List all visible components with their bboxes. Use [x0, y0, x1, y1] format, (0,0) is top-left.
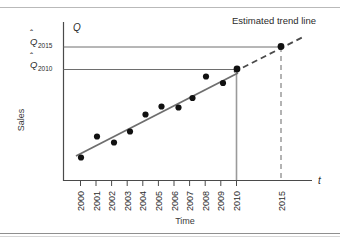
- x-tick-label-2005: 2005: [154, 191, 164, 211]
- trend-line-annotation: Estimated trend line: [232, 15, 316, 26]
- y-tick-label-q2010: Q ̂ 2010: [30, 52, 53, 73]
- y-tick-q2010-subscript: 2010: [38, 65, 53, 72]
- data-point-2002: [111, 139, 117, 145]
- trend-line-extrapolation: [234, 36, 305, 72]
- x-axis-ticks: [81, 181, 237, 187]
- x-tick-label-2002: 2002: [107, 191, 117, 211]
- data-point-2009: [220, 80, 226, 86]
- trend-line-fitted: [76, 73, 238, 156]
- chart-figure: Q t Q ̂ 2015 Q ̂ 2010 Sales: [0, 0, 340, 242]
- data-point-2010-forecast: [234, 66, 241, 73]
- data-point-2006: [175, 104, 181, 110]
- data-point-2005: [158, 103, 164, 109]
- x-tick-label-2015: 2015: [277, 191, 287, 211]
- data-point-2000: [78, 154, 84, 160]
- data-point-2004: [142, 111, 148, 117]
- y-axis-title: Sales: [16, 108, 26, 131]
- x-axis-symbol: t: [318, 175, 322, 186]
- y-tick-q2015-subscript: 2015: [38, 42, 53, 49]
- data-point-2007: [189, 95, 195, 101]
- data-point-2001: [94, 133, 100, 139]
- y-tick-q2015-hat: ̂: [30, 29, 34, 31]
- data-point-2003: [127, 128, 133, 134]
- x-tick-label-2007: 2007: [185, 191, 195, 211]
- y-axis-symbol: Q: [73, 22, 81, 33]
- data-point-2008: [203, 73, 209, 79]
- x-tick-label-2010: 2010: [232, 191, 242, 211]
- x-tick-label-2000: 2000: [76, 191, 86, 211]
- scatter-trend-chart: Q t Q ̂ 2015 Q ̂ 2010 Sales: [0, 0, 340, 242]
- x-tick-label-2006: 2006: [170, 191, 180, 211]
- x-tick-label-2008: 2008: [201, 191, 211, 211]
- data-point-2015-forecast: [278, 43, 285, 50]
- x-axis-title: Time: [175, 216, 195, 226]
- x-tick-label-2001: 2001: [92, 191, 102, 211]
- y-tick-label-q2015: Q ̂ 2015: [30, 29, 53, 50]
- y-tick-q2010-base: Q: [30, 59, 38, 70]
- y-tick-q2015-base: Q: [30, 36, 38, 47]
- y-tick-q2010-hat: ̂: [30, 52, 34, 54]
- x-tick-labels: 2000 2001 2002 2003 2004 2005 2006 2007 …: [76, 191, 287, 211]
- x-tick-label-2004: 2004: [138, 191, 148, 211]
- x-tick-label-2009: 2009: [216, 191, 226, 211]
- x-tick-label-2003: 2003: [123, 191, 133, 211]
